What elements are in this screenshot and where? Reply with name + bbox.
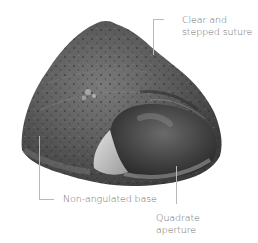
label-aperture-line1: Quadrate: [156, 212, 200, 224]
base-leader-vertical: [39, 136, 40, 199]
label-suture-line2: stepped suture: [182, 26, 252, 38]
aperture-leader-vertical: [176, 166, 177, 204]
suture-leader-horizontal: [153, 19, 164, 20]
label-suture-line1: Clear and: [182, 14, 252, 26]
suture-leader-vertical: [153, 19, 154, 55]
base-leader-horizontal: [39, 199, 54, 200]
label-aperture: Quadrate aperture: [156, 212, 200, 236]
label-aperture-line2: aperture: [156, 224, 200, 236]
label-suture: Clear and stepped suture: [182, 14, 252, 38]
label-base: Non-angulated base: [63, 193, 157, 205]
specimen-diagram: Clear and stepped suture Non-angulated b…: [0, 0, 258, 243]
